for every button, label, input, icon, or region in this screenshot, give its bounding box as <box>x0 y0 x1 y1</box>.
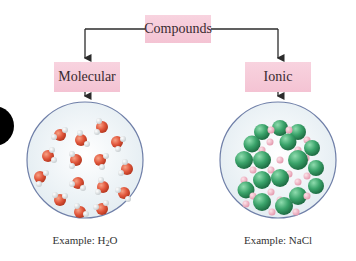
molecular-label: Molecular <box>58 69 116 85</box>
nacl-lattice-illustration <box>220 102 336 218</box>
molecular-example-caption: Example: H2O <box>35 234 135 248</box>
molecular-box: Molecular <box>54 62 120 92</box>
ionic-example-caption: Example: NaCl <box>228 234 328 246</box>
compounds-label: Compounds <box>144 21 212 37</box>
water-molecules-illustration <box>27 102 143 218</box>
ionic-box: Ionic <box>245 62 311 92</box>
ionic-label: Ionic <box>264 69 293 85</box>
compounds-box: Compounds <box>145 15 211 43</box>
